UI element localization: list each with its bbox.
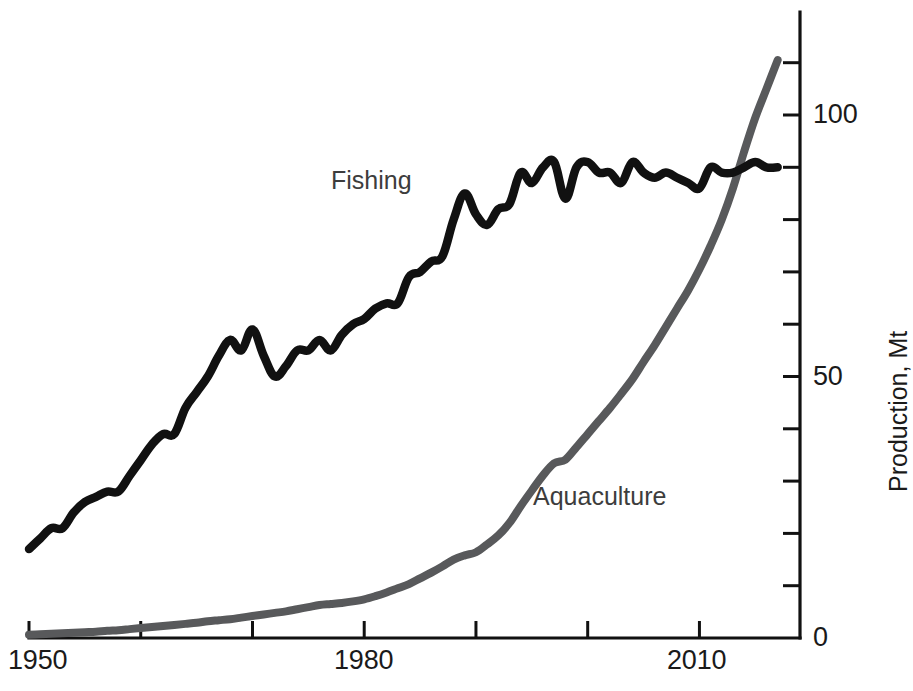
y-tick-label-50: 50	[813, 361, 843, 392]
y-tick-label-100: 100	[813, 99, 857, 130]
x-tick-label-2010: 2010	[667, 645, 726, 676]
series-label-aquaculture: Aquaculture	[533, 482, 666, 511]
y-axis-ticks	[783, 63, 800, 586]
x-tick-label-1950: 1950	[8, 645, 67, 676]
x-tick-label-1980: 1980	[334, 645, 393, 676]
y-axis-title: Production, Mt	[884, 331, 913, 492]
series-label-fishing: Fishing	[331, 166, 412, 195]
series-line-aquaculture	[29, 60, 778, 635]
y-tick-label-0: 0	[813, 622, 828, 653]
